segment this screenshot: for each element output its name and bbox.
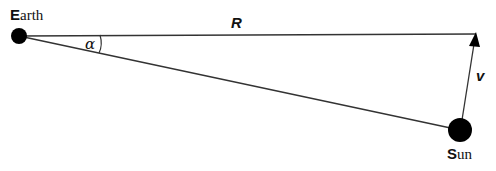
velocity-label: v: [476, 67, 486, 84]
angle-arc: [99, 35, 101, 53]
earth-label: Earth: [10, 6, 44, 23]
angle-label: α: [85, 35, 95, 53]
distance-label: R: [231, 14, 242, 31]
sun-dot: [448, 118, 472, 142]
velocity-vector: [462, 44, 474, 120]
aberration-diagram: Earth Sun R v α: [0, 0, 496, 171]
sun-label: Sun: [447, 145, 473, 162]
earth-dot: [11, 28, 27, 44]
